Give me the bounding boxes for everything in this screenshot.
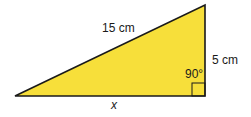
base-label: x	[111, 98, 117, 112]
hypotenuse-label: 15 cm	[102, 21, 135, 35]
vertical-side-label: 5 cm	[212, 53, 238, 67]
right-angle-label: 90°	[185, 67, 203, 81]
right-triangle	[15, 5, 205, 96]
